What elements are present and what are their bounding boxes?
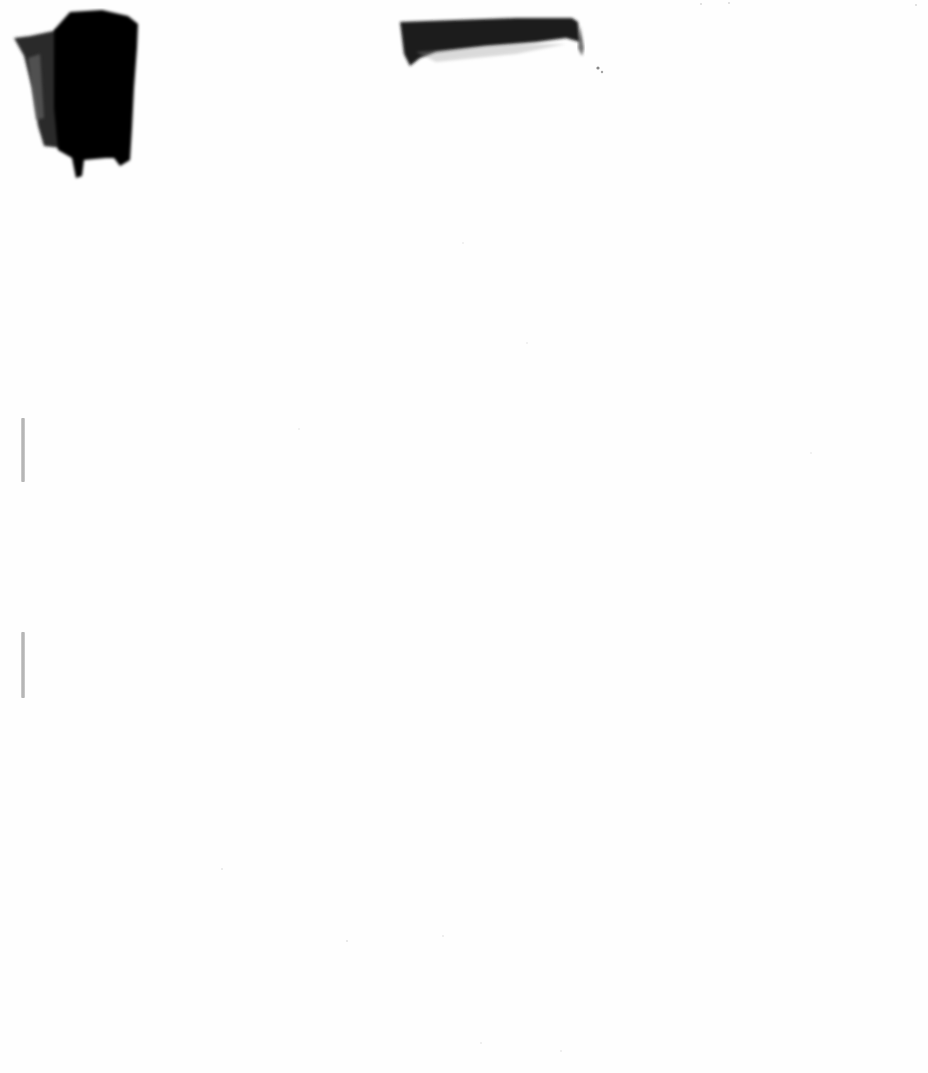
scanned-document-page [0,0,928,1073]
scan-speck [526,342,528,344]
scan-speck [462,242,464,244]
scan-speck [810,452,812,454]
scan-speck [700,3,702,5]
scan-speck [560,1050,562,1052]
scan-speck [442,935,444,937]
scan-speck [346,940,348,942]
redaction-bar-top-center [396,8,611,78]
binding-mark-upper [21,418,25,482]
binding-mark-lower [21,632,25,698]
scan-speck [298,428,300,430]
scan-speck [480,1042,482,1044]
scan-speck [728,2,730,4]
scan-speck [915,4,917,6]
scan-speck [221,868,223,870]
redaction-block-top-left [10,8,150,183]
